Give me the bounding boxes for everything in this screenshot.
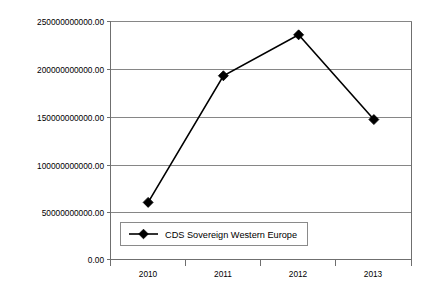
x-axis-label-2012: 2012 [289, 269, 308, 279]
chart-canvas: 250000000000.00 200000000000.00 15000000… [0, 0, 425, 297]
y-axis-label-200b: 200000000000.00 [37, 65, 104, 75]
x-axis-label-2013: 2013 [364, 269, 383, 279]
y-axis-label-250b: 250000000000.00 [37, 17, 104, 27]
legend-entry-label: CDS Sovereign Western Europe [165, 230, 297, 240]
y-axis-label-0: 0.00 [88, 255, 105, 265]
x-axis-label-2010: 2010 [139, 269, 158, 279]
x-axis-label-2011: 2011 [214, 269, 232, 279]
chart-background [0, 0, 425, 297]
line-chart: 250000000000.00 200000000000.00 15000000… [0, 0, 425, 297]
legend: CDS Sovereign Western Europe [121, 223, 308, 246]
y-axis-label-50b: 50000000000.00 [42, 208, 105, 218]
y-axis-label-100b: 100000000000.00 [37, 161, 104, 171]
y-axis-label-150b: 150000000000.00 [37, 113, 104, 123]
